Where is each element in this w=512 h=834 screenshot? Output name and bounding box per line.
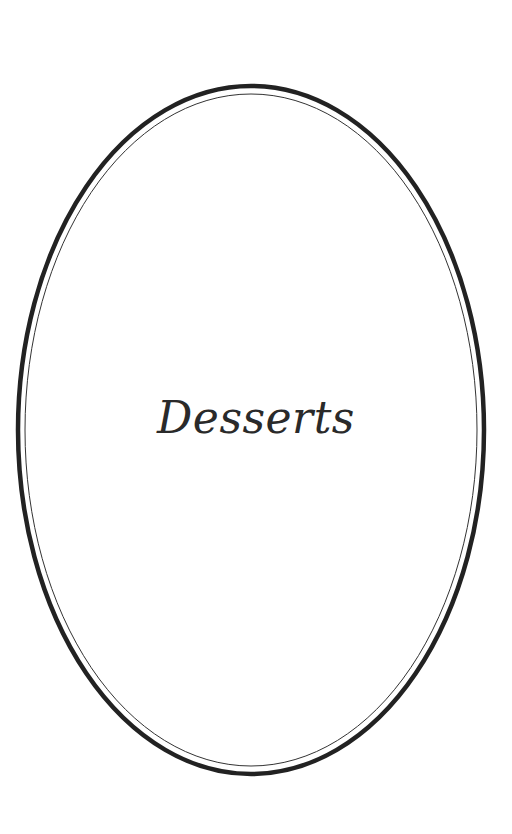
menu-section-page: Desserts [0, 0, 512, 834]
section-title: Desserts [0, 396, 512, 440]
